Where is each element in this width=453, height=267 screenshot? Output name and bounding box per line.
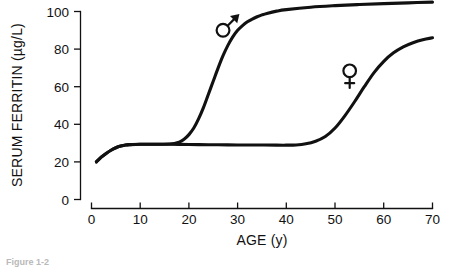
x-axis: 0 10 20 30 40 50 60 70 AGE (y) [88, 203, 440, 249]
data-curves [96, 2, 432, 162]
y-axis-tick-label-40: 40 [54, 117, 69, 132]
y-axis-tick-label-60: 60 [54, 80, 69, 95]
y-axis-tick-label-80: 80 [54, 42, 69, 57]
serum-ferritin-line-chart: 100 80 60 40 20 0 SERUM FERRITIN (µg/L) … [0, 0, 453, 267]
female-symbol-circle [343, 65, 356, 78]
figure-container: 100 80 60 40 20 0 SERUM FERRITIN (µg/L) … [0, 0, 453, 267]
x-axis-tick-label-40: 40 [279, 212, 294, 227]
y-axis: 100 80 60 40 20 0 SERUM FERRITIN (µg/L) [9, 5, 81, 208]
y-axis-tick-label-100: 100 [46, 5, 69, 20]
male-ferritin-curve [96, 2, 432, 162]
x-axis-tick-label-60: 60 [376, 212, 391, 227]
x-axis-tick-label-70: 70 [425, 212, 440, 227]
y-axis-tick-label-20: 20 [54, 155, 69, 170]
x-axis-tick-label-0: 0 [88, 212, 96, 227]
female-symbol [343, 65, 356, 89]
y-axis-tick-label-0: 0 [61, 193, 69, 208]
x-axis-tick-label-20: 20 [181, 212, 196, 227]
x-axis-tick-label-50: 50 [327, 212, 342, 227]
y-axis-title: SERUM FERRITIN (µg/L) [9, 23, 25, 187]
x-axis-tick-label-10: 10 [133, 212, 148, 227]
figure-caption-fragment: Figure 1-2 [6, 258, 236, 267]
x-axis-title: AGE (y) [236, 232, 287, 248]
female-ferritin-curve [96, 38, 432, 162]
x-axis-tick-label-30: 30 [230, 212, 245, 227]
